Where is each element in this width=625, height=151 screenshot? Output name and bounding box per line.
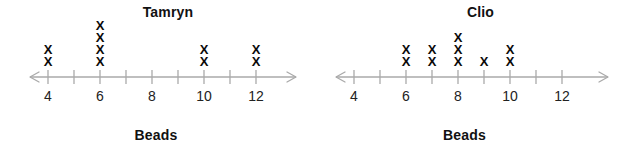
x-mark: X (454, 56, 463, 68)
x-stack-tamryn-10: XX (200, 44, 209, 68)
x-stack-tamryn-6: XXXX (96, 20, 105, 68)
x-mark: X (480, 56, 489, 68)
dot-plot-tamryn: Tamryn 4681012 XXXXXXXXXX Beads (0, 0, 312, 151)
x-mark: X (402, 56, 411, 68)
x-mark: X (200, 56, 209, 68)
axis-label-beads-tamryn: Beads (0, 127, 312, 143)
axis-label-beads-clio: Beads (308, 127, 621, 143)
x-stack-tamryn-4: XX (44, 44, 53, 68)
x-mark: X (506, 56, 515, 68)
x-stack-clio-9: X (480, 56, 489, 68)
x-mark: X (44, 56, 53, 68)
dot-plot-clio: Clio 4681012 XXXXXXXXXX Beads (312, 0, 625, 151)
x-mark: X (252, 56, 261, 68)
x-stack-clio-8: XXX (454, 32, 463, 68)
x-stack-tamryn-12: XX (252, 44, 261, 68)
x-mark: X (428, 56, 437, 68)
x-stack-clio-6: XX (402, 44, 411, 68)
x-stack-clio-10: XX (506, 44, 515, 68)
x-mark: X (96, 56, 105, 68)
dot-plot-pair: Tamryn 4681012 XXXXXXXXXX Beads Clio 468… (0, 0, 625, 151)
x-stack-clio-7: XX (428, 44, 437, 68)
